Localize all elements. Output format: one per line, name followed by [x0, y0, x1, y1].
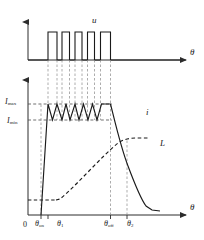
theta-1-subscript: 1 [61, 223, 63, 228]
current-label: i [146, 108, 149, 117]
pulse-edge-guides [48, 60, 111, 120]
theta-off-label: θoff [104, 220, 114, 229]
theta-2-subscript: 2 [131, 223, 133, 228]
theta-on-label: θon [35, 220, 44, 229]
theta-on-subscript: on [39, 223, 44, 228]
i-min-subscript: min [10, 120, 18, 125]
voltage-label: u [92, 16, 97, 25]
current-panel [28, 80, 186, 219]
theta-axis-label-bottom: θ [190, 203, 194, 212]
voltage-panel [28, 22, 186, 60]
theta-off-subscript: off [108, 223, 114, 228]
theta-1-label: θ1 [57, 220, 63, 229]
inductance-label: L [160, 139, 165, 148]
i-min-label: Imin [7, 117, 17, 126]
inductance-curve [56, 138, 150, 200]
figure-container: u θ θ Imax Imin i L 0 θon θ1 θoff θ2 [0, 0, 204, 240]
i-max-label: Imax [5, 98, 16, 107]
origin-label: 0 [23, 221, 27, 229]
voltage-pulse-train [28, 32, 180, 60]
theta-axis-label-top: θ [190, 48, 194, 57]
waveform-svg [0, 0, 204, 240]
theta-2-label: θ2 [127, 220, 133, 229]
x-axis-ticks [41, 215, 127, 219]
i-max-subscript: max [8, 101, 17, 106]
current-curve [41, 104, 160, 215]
